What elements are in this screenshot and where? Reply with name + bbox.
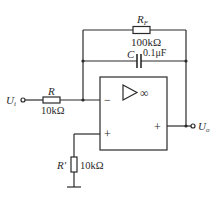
- balance-resistor-rprime: [71, 157, 77, 172]
- r-value: 10kΩ: [41, 105, 65, 116]
- opamp-output-sign: +: [154, 120, 161, 134]
- rf-label: RF: [136, 13, 149, 27]
- opamp-inverting-sign: −: [104, 93, 111, 107]
- rprime-label: R′: [56, 159, 67, 171]
- junction-dot: [184, 124, 187, 127]
- c-value: 0.1μF: [143, 47, 167, 58]
- opamp-noninverting-sign: +: [104, 127, 111, 141]
- opamp-gain: ∞: [140, 86, 149, 100]
- junction-dot: [81, 59, 84, 62]
- output-terminal: [191, 124, 195, 128]
- rprime-value: 10kΩ: [80, 160, 104, 171]
- feedback-resistor-rf: [133, 27, 150, 34]
- junction-dot: [184, 59, 187, 62]
- opamp-triangle-icon: [123, 85, 137, 100]
- output-label: Uo: [198, 120, 210, 134]
- circuit-diagram: RF 100kΩ C 0.1μF Ui R 10kΩ ∞ − + + Uo R′…: [0, 0, 221, 202]
- c-label: C: [127, 48, 135, 60]
- input-terminal: [21, 98, 25, 102]
- input-label: Ui: [6, 94, 16, 108]
- input-resistor-r: [43, 97, 60, 103]
- junction-dot: [81, 98, 84, 101]
- r-label: R: [47, 85, 55, 97]
